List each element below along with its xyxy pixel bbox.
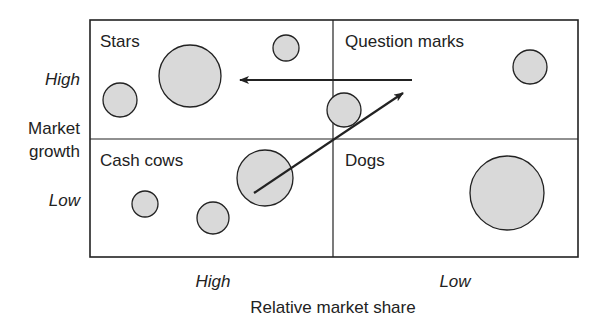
y-tick-high: High bbox=[45, 70, 80, 89]
bubble-5 bbox=[327, 93, 361, 127]
bubble-8 bbox=[237, 150, 293, 206]
x-tick-low: Low bbox=[439, 272, 472, 291]
bubble-7 bbox=[197, 202, 229, 234]
y-axis-label-line2: growth bbox=[29, 142, 80, 161]
bcg-matrix-diagram: Stars Question marks Cash cows Dogs High… bbox=[0, 0, 594, 328]
quadrant-label-stars: Stars bbox=[100, 32, 140, 51]
bubble-9 bbox=[470, 156, 544, 230]
bubble-2 bbox=[159, 45, 221, 107]
bubble-6 bbox=[132, 191, 158, 217]
quadrant-label-cash-cows: Cash cows bbox=[100, 151, 183, 170]
quadrant-label-dogs: Dogs bbox=[345, 151, 385, 170]
y-tick-low: Low bbox=[49, 191, 82, 210]
y-axis-label-line1: Market bbox=[28, 119, 80, 138]
bubble-1 bbox=[103, 83, 137, 117]
quadrant-label-question-marks: Question marks bbox=[345, 32, 464, 51]
bubble-4 bbox=[513, 50, 547, 84]
bubble-3 bbox=[273, 35, 299, 61]
x-tick-high: High bbox=[196, 272, 231, 291]
bubble-group bbox=[103, 35, 547, 234]
x-axis-label: Relative market share bbox=[250, 298, 415, 317]
